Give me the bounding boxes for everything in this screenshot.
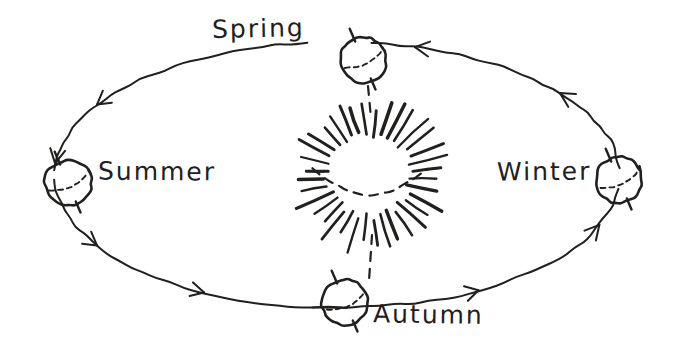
- sun-dashed-arc: [312, 168, 428, 195]
- orbit-arrow-to-winter: [584, 225, 599, 231]
- season-label-winter: Winter: [497, 157, 592, 187]
- sun-earth-link-group: [368, 86, 372, 281]
- orbit-arc-spring-to-summer: [54, 43, 307, 171]
- earth-globe-autumn: [321, 271, 368, 332]
- globe-outline: [44, 160, 92, 205]
- earth-globe-summer: [44, 152, 92, 213]
- globe-outline: [321, 279, 368, 326]
- orbit-arrow-to-spring: [560, 93, 568, 107]
- season-label-summer: Summer: [98, 157, 216, 187]
- sun-ray: [364, 213, 367, 239]
- sun-ray: [386, 210, 397, 239]
- sun-ray: [362, 104, 367, 135]
- earth-globe-winter: [596, 149, 641, 210]
- sun-ray: [322, 212, 344, 239]
- sun-ray: [301, 157, 328, 164]
- globe-outline: [596, 156, 641, 203]
- sun-ray: [407, 128, 433, 149]
- orbit-arrow-to-winter: [464, 286, 479, 290]
- orbit-arc-autumn-to-winter: [312, 189, 618, 308]
- sun-ray: [373, 111, 376, 138]
- globe-equator: [345, 52, 381, 68]
- sun-ray: [411, 144, 444, 156]
- globe-axis-north: [332, 271, 337, 284]
- orbit-arrow-to-summer: [50, 148, 55, 163]
- sun-ray: [325, 128, 340, 145]
- earth-globe-spring: [341, 29, 386, 90]
- sun-ray: [397, 202, 425, 227]
- sun-ray: [374, 221, 378, 246]
- season-label-autumn: Autumn: [373, 299, 484, 330]
- globe-outline: [341, 37, 386, 83]
- sun-ray: [409, 155, 447, 165]
- sun-ray: [410, 194, 441, 211]
- seasons-diagram: Spring Summer Autumn Winter: [0, 0, 675, 355]
- sun-group: [296, 103, 447, 253]
- sun-link-autumn: [369, 235, 372, 281]
- sun-ray: [298, 179, 323, 180]
- season-label-spring: Spring: [212, 13, 305, 44]
- sun-ray: [348, 218, 359, 252]
- sun-link-spring: [368, 86, 371, 118]
- orbit-arrow-to-autumn: [190, 292, 205, 296]
- sun-ray: [396, 212, 412, 235]
- globe-equator: [600, 172, 637, 188]
- sun-ray: [407, 185, 437, 191]
- sun-ray: [302, 187, 327, 192]
- sun-ray: [350, 108, 359, 132]
- orbit-arrow-to-spring: [560, 93, 576, 94]
